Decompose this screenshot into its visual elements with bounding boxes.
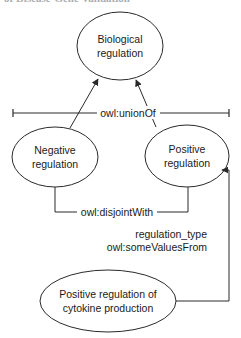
node-label: regulation <box>32 158 78 170</box>
node-label: regulation <box>164 157 210 169</box>
node-positive-regulation-of-cytokine-production: Positive regulation of cytokine producti… <box>40 270 176 332</box>
node-label: Positive <box>169 143 206 155</box>
some-values-from-label: owl:someValuesFrom <box>107 241 207 253</box>
node-label: Negative <box>34 144 76 156</box>
node-positive-regulation: Positive regulation <box>145 125 229 187</box>
disjoint-with-connector: owl:disjointWith <box>55 187 188 218</box>
node-label: Positive regulation of <box>59 288 157 300</box>
ontology-diagram: Biological regulation owl:unionOf Negati… <box>0 0 241 338</box>
isa-arrow-negative <box>70 79 98 128</box>
node-label: Biological <box>98 33 143 45</box>
node-negative-regulation: Negative regulation <box>12 127 98 187</box>
node-label: cytokine production <box>63 302 154 314</box>
union-of-label: owl:unionOf <box>100 107 156 119</box>
node-biological-regulation: Biological regulation <box>77 12 163 80</box>
isa-arrow-positive <box>136 80 156 127</box>
node-label: regulation <box>97 47 143 59</box>
regulation-type-label: regulation_type <box>135 228 207 240</box>
union-of-connector: owl:unionOf <box>13 106 229 119</box>
disjoint-with-label: owl:disjointWith <box>81 206 154 218</box>
